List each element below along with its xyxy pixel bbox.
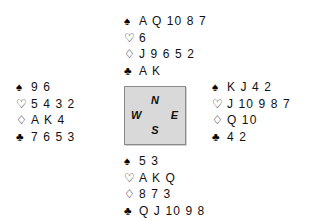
east-spades-cards: K J 4 2	[227, 79, 272, 96]
west-hand: ♠ 9 6 ♡ 5 4 3 2 ♢ A K 4 ♣ 7 6 5 3	[16, 79, 75, 145]
east-clubs-row: ♣ 4 2	[212, 129, 291, 146]
west-clubs-row: ♣ 7 6 5 3	[16, 129, 75, 146]
west-hearts-row: ♡ 5 4 3 2	[16, 96, 75, 113]
north-hearts-cards: 6	[139, 30, 147, 47]
heart-icon: ♡	[124, 30, 139, 47]
north-hand: ♠ A Q 10 8 7 ♡ 6 ♢ J 9 6 5 2 ♣ A K	[124, 13, 207, 79]
club-icon: ♣	[212, 129, 227, 146]
diamond-icon: ♢	[212, 112, 227, 129]
heart-icon: ♡	[124, 170, 139, 187]
club-icon: ♣	[124, 203, 139, 220]
north-hearts-row: ♡ 6	[124, 30, 207, 47]
south-clubs-cards: Q J 10 9 8	[139, 203, 205, 220]
club-icon: ♣	[16, 129, 31, 146]
south-spades-row: ♠ 5 3	[124, 153, 205, 170]
spade-icon: ♠	[16, 79, 31, 96]
west-spades-row: ♠ 9 6	[16, 79, 75, 96]
club-icon: ♣	[124, 63, 139, 80]
compass-west-label: W	[131, 110, 141, 121]
north-spades-row: ♠ A Q 10 8 7	[124, 13, 207, 30]
south-diamonds-cards: 8 7 3	[139, 186, 171, 203]
east-diamonds-row: ♢ Q 10	[212, 112, 291, 129]
east-hearts-cards: J 10 9 8 7	[227, 96, 291, 113]
compass-south-label: S	[125, 125, 185, 136]
east-hearts-row: ♡ J 10 9 8 7	[212, 96, 291, 113]
east-spades-row: ♠ K J 4 2	[212, 79, 291, 96]
spade-icon: ♠	[124, 153, 139, 170]
south-spades-cards: 5 3	[139, 153, 159, 170]
spade-icon: ♠	[212, 79, 227, 96]
diamond-icon: ♢	[16, 112, 31, 129]
compass-east-label: E	[171, 110, 178, 121]
west-diamonds-cards: A K 4	[31, 112, 65, 129]
south-hearts-cards: A K Q	[139, 170, 176, 187]
south-hearts-row: ♡ A K Q	[124, 170, 205, 187]
compass-north-label: N	[125, 95, 185, 106]
south-diamonds-row: ♢ 8 7 3	[124, 186, 205, 203]
south-clubs-row: ♣ Q J 10 9 8	[124, 203, 205, 220]
spade-icon: ♠	[124, 13, 139, 30]
diamond-icon: ♢	[124, 186, 139, 203]
heart-icon: ♡	[16, 96, 31, 113]
west-hearts-cards: 5 4 3 2	[31, 96, 75, 113]
west-diamonds-row: ♢ A K 4	[16, 112, 75, 129]
west-spades-cards: 9 6	[31, 79, 51, 96]
north-clubs-row: ♣ A K	[124, 63, 207, 80]
diamond-icon: ♢	[124, 46, 139, 63]
west-clubs-cards: 7 6 5 3	[31, 129, 75, 146]
compass-box: N W E S	[124, 86, 186, 145]
north-clubs-cards: A K	[139, 63, 161, 80]
north-spades-cards: A Q 10 8 7	[139, 13, 207, 30]
east-diamonds-cards: Q 10	[227, 112, 257, 129]
east-hand: ♠ K J 4 2 ♡ J 10 9 8 7 ♢ Q 10 ♣ 4 2	[212, 79, 291, 145]
east-clubs-cards: 4 2	[227, 129, 247, 146]
north-diamonds-row: ♢ J 9 6 5 2	[124, 46, 207, 63]
heart-icon: ♡	[212, 96, 227, 113]
south-hand: ♠ 5 3 ♡ A K Q ♢ 8 7 3 ♣ Q J 10 9 8	[124, 153, 205, 219]
north-diamonds-cards: J 9 6 5 2	[139, 46, 195, 63]
bridge-deal-diagram: ♠ A Q 10 8 7 ♡ 6 ♢ J 9 6 5 2 ♣ A K ♠ 9 6…	[0, 0, 309, 221]
